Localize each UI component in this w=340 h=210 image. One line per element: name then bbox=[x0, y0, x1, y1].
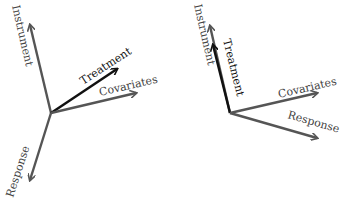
covariates-label: Covariates bbox=[277, 75, 338, 101]
instrument-arrow bbox=[30, 25, 51, 113]
causal-vector-diagrams: Instrument Treatment Covariates Response… bbox=[0, 0, 340, 210]
response-arrow bbox=[30, 113, 51, 180]
left-diagram: Instrument Treatment Covariates Response bbox=[3, 4, 159, 199]
response-label: Response bbox=[3, 144, 32, 199]
covariates-arrow bbox=[230, 93, 317, 113]
right-diagram: Instrument Treatment Covariates Response bbox=[191, 3, 340, 138]
instrument-label: Instrument bbox=[191, 3, 218, 67]
covariates-arrow bbox=[51, 93, 136, 113]
